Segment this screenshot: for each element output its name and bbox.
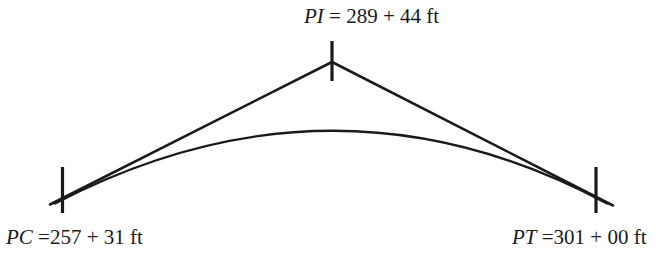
pt-value: 301 + 00 ft <box>554 225 647 249</box>
pc-symbol: PC <box>6 225 33 249</box>
pi-value: 289 + 44 ft <box>346 4 439 28</box>
pi-equals: = <box>324 4 346 28</box>
pc-station-label: PC =257 + 31 ft <box>6 227 143 248</box>
pt-station-label: PT =301 + 00 ft <box>512 227 647 248</box>
pt-equals: = <box>537 225 554 249</box>
forward-tangent-line <box>332 62 613 206</box>
curve-drawing <box>0 0 670 262</box>
pc-value: 257 + 31 ft <box>50 225 143 249</box>
pi-station-label: PI = 289 + 44 ft <box>304 6 439 27</box>
pc-equals: = <box>33 225 50 249</box>
horizontal-curve-diagram: PI = 289 + 44 ft PC =257 + 31 ft PT =301… <box>0 0 670 262</box>
circular-curve-arc <box>55 131 607 204</box>
pt-symbol: PT <box>512 225 537 249</box>
pi-symbol: PI <box>304 4 324 28</box>
